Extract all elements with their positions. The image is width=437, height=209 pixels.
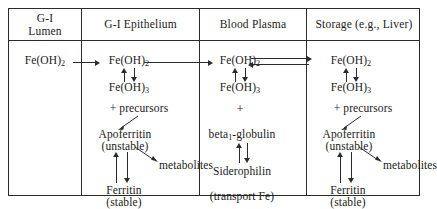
plasma-fe-oh-3-label: Fe(OH) (220, 81, 256, 93)
storage-fe-oh-3: Fe(OH)3 (331, 81, 372, 95)
plasma-globulin-label: -globulin (232, 128, 275, 140)
arrow-storage-down (353, 68, 359, 82)
header-storage-label: Storage (e.g., Liver) (315, 18, 412, 31)
epithelium-fe-oh-3: Fe(OH)3 (109, 81, 150, 95)
lumen-fe-oh-2-sub: 2 (61, 59, 65, 68)
plasma-fe-oh-3-sub: 3 (256, 86, 260, 95)
arrow-storage-ferritin-up (337, 152, 343, 183)
storage-fe-oh-2-label: Fe(OH) (331, 54, 367, 66)
arrow-plasma-siderophilin-up (236, 143, 242, 163)
epithelium-plus-precursors: + precursors (110, 102, 168, 115)
arrow-storage-ferritin-down (348, 152, 354, 183)
arrow-plasma-up (232, 68, 238, 82)
epithelium-fe-oh-3-sub: 3 (145, 86, 149, 95)
plasma-transport-fe: (transport Fe) (210, 190, 274, 203)
lumen-fe-oh-2-label: Fe(OH) (25, 54, 61, 66)
arrow-epithelium-ferritin-down (124, 152, 130, 183)
cell-storage: Fe(OH)2 Fe(OH)3 + precursors Apoferritin… (307, 40, 421, 195)
storage-fe-oh-2: Fe(OH)2 (331, 54, 372, 68)
header-gi-epithelium: G-I Epithelium (82, 9, 199, 40)
plasma-beta-label: beta (209, 128, 229, 140)
arrow-plasma-siderophilin-down (244, 143, 250, 163)
storage-plus-precursors: + precursors (334, 102, 392, 115)
arrow-epithelium-down (131, 68, 137, 82)
header-gi-lumen: G-I Lumen (9, 9, 81, 40)
storage-fe-oh-3-sub: 3 (367, 86, 371, 95)
header-storage: Storage (e.g., Liver) (307, 9, 421, 40)
plasma-siderophilin: Siderophilin (213, 165, 271, 178)
plasma-beta-globulin: beta1-globulin (209, 128, 276, 142)
iron-metabolism-table: G-I Lumen G-I Epithelium Blood Plasma St… (8, 8, 420, 196)
header-gi-lumen-line2: Lumen (28, 25, 62, 37)
epithelium-fe-oh-3-label: Fe(OH) (109, 81, 145, 93)
header-gi-epithelium-label: G-I Epithelium (104, 18, 177, 31)
header-blood-plasma: Blood Plasma (200, 9, 306, 40)
storage-fe-oh-3-label: Fe(OH) (331, 81, 367, 93)
arrow-plasma-down (242, 68, 248, 82)
arrow-storage-metabolites-diagonal (358, 146, 384, 164)
arrow-epithelium-up (121, 68, 127, 82)
epithelium-ferritin-state: (stable) (106, 196, 141, 209)
arrow-epithelium-metabolites-diagonal (134, 146, 160, 164)
cell-gi-lumen: Fe(OH)2 (9, 40, 81, 195)
arrow-plasma-storage-equilibrium (246, 55, 314, 69)
lumen-fe-oh-2: Fe(OH)2 (25, 54, 66, 68)
header-blood-plasma-label: Blood Plasma (220, 18, 287, 31)
arrow-storage-up (343, 68, 349, 82)
storage-ferritin-state: (stable) (330, 196, 365, 209)
arrow-epithelium-ferritin-up (113, 152, 119, 183)
header-gi-lumen-line1: G-I (37, 12, 54, 24)
epithelium-fe-oh-2-label: Fe(OH) (109, 54, 145, 66)
plasma-plus: + (236, 102, 243, 117)
plasma-fe-oh-3: Fe(OH)3 (220, 81, 261, 95)
storage-metabolites: metabolites (383, 159, 437, 172)
storage-fe-oh-2-sub: 2 (367, 59, 371, 68)
